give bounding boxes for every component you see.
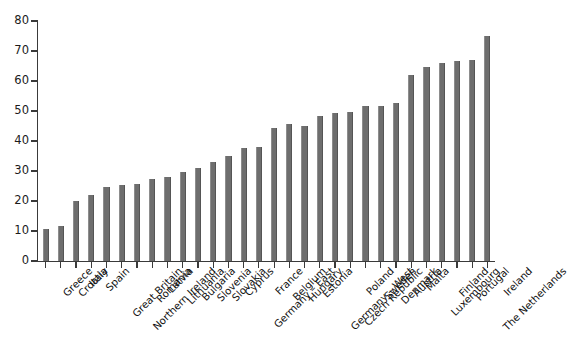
y-axis-tick-label-text: 50	[3, 105, 29, 117]
bar	[362, 106, 368, 261]
y-axis-tick-label-text: 60	[3, 75, 29, 87]
bar	[210, 162, 216, 261]
x-axis-tick	[152, 262, 153, 268]
bar	[301, 126, 307, 261]
bar	[484, 36, 490, 261]
y-axis-tick	[31, 260, 38, 261]
y-axis-tick	[31, 230, 38, 231]
y-axis-tick-label: 70	[0, 45, 29, 57]
x-axis-tick	[395, 262, 396, 268]
x-axis-tick	[136, 262, 137, 268]
bar	[195, 168, 201, 261]
bar	[469, 60, 475, 261]
bar	[119, 185, 125, 261]
y-axis-tick-label: 20	[0, 195, 29, 207]
y-axis-tick-label: 10	[0, 225, 29, 237]
bar	[103, 187, 109, 261]
bar	[43, 229, 49, 261]
bar	[241, 148, 247, 261]
x-axis-tick	[274, 262, 275, 268]
bar	[423, 67, 429, 261]
x-axis-tick	[472, 262, 473, 268]
y-axis-tick-label-text: 80	[3, 15, 29, 27]
y-axis-tick	[31, 80, 38, 81]
x-axis-tick	[350, 262, 351, 268]
x-axis-tick	[365, 262, 366, 268]
y-axis-tick-label: 40	[0, 135, 29, 147]
bar	[88, 195, 94, 261]
bar	[408, 75, 414, 261]
bar	[134, 184, 140, 261]
y-axis-tick-label-text: 10	[3, 225, 29, 237]
x-axis-tick	[60, 262, 61, 268]
y-axis-tick	[31, 20, 38, 21]
bar	[454, 61, 460, 261]
x-axis-tick	[45, 262, 46, 268]
bar	[149, 179, 155, 261]
y-axis-tick	[31, 200, 38, 201]
bar	[347, 112, 353, 261]
x-axis-tick	[289, 262, 290, 268]
x-axis-tick	[91, 262, 92, 268]
y-axis-tick	[31, 110, 38, 111]
bar	[317, 116, 323, 262]
x-axis-category-label: Spain	[105, 266, 132, 293]
bar	[225, 156, 231, 261]
bar	[286, 124, 292, 261]
y-axis-tick-label-text: 40	[3, 135, 29, 147]
x-axis-tick	[106, 262, 107, 268]
bar	[271, 128, 277, 261]
y-axis-tick	[31, 50, 38, 51]
x-axis-tick	[380, 262, 381, 268]
bar	[378, 106, 384, 261]
x-axis-tick	[167, 262, 168, 268]
y-axis-tick-label: 60	[0, 75, 29, 87]
y-axis-tick-label-text: 30	[3, 165, 29, 177]
bar	[439, 63, 445, 261]
x-axis-tick	[456, 262, 457, 268]
x-axis-tick	[487, 262, 488, 268]
x-axis-tick	[197, 262, 198, 268]
bar	[332, 113, 338, 262]
bar	[256, 147, 262, 261]
y-axis-tick-label-text: 0	[3, 255, 29, 267]
bar	[393, 103, 399, 261]
x-axis-tick	[75, 262, 76, 268]
bar	[58, 226, 64, 261]
x-axis-category-label: The Netherlands	[502, 266, 569, 333]
y-axis-tick-label: 30	[0, 165, 29, 177]
y-axis-tick	[31, 170, 38, 171]
y-axis-tick-label: 50	[0, 105, 29, 117]
bar	[164, 177, 170, 261]
y-axis-tick-label-text: 70	[3, 45, 29, 57]
y-axis-tick-label: 0	[0, 255, 29, 267]
bar	[73, 201, 79, 261]
y-axis-tick-label-text: 20	[3, 195, 29, 207]
x-axis-tick	[304, 262, 305, 268]
y-axis-tick	[31, 140, 38, 141]
bar	[180, 172, 186, 261]
x-axis-tick	[426, 262, 427, 268]
y-axis-tick-label: 80	[0, 15, 29, 27]
